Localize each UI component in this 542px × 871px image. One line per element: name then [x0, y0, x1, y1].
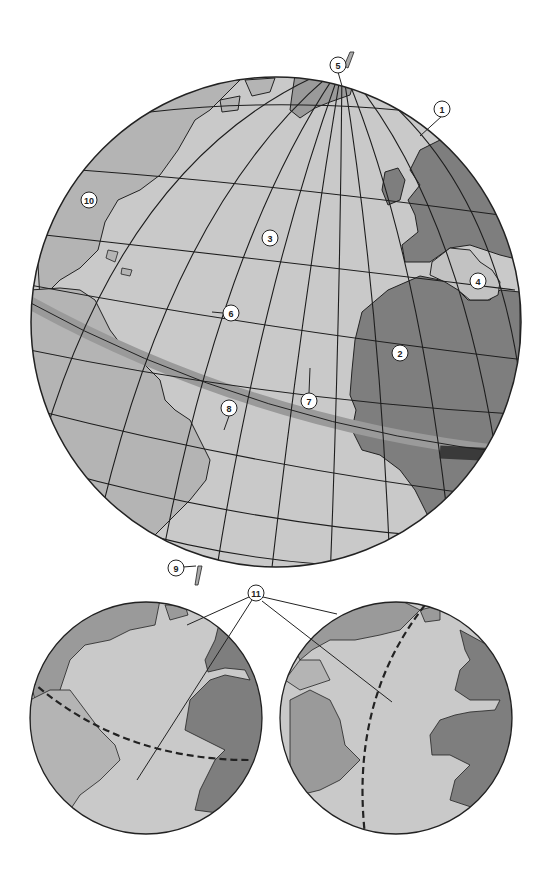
svg-text:3: 3 [267, 234, 272, 244]
callout-4: 4 [470, 273, 486, 289]
callout-8: 8 [221, 400, 237, 416]
svg-text:6: 6 [228, 309, 233, 319]
svg-text:1: 1 [439, 105, 444, 115]
svg-text:4: 4 [475, 277, 480, 287]
callout-3: 3 [262, 230, 278, 246]
svg-text:9: 9 [173, 564, 178, 574]
globe-diagram: 1 2 3 4 5 6 7 8 9 10 [0, 0, 542, 871]
callout-6: 6 [223, 305, 239, 321]
svg-text:8: 8 [226, 404, 231, 414]
callout-5: 5 [330, 57, 346, 73]
europe-landmass [402, 140, 520, 262]
svg-text:7: 7 [306, 397, 311, 407]
main-globe [25, 52, 530, 600]
svg-text:10: 10 [84, 196, 94, 206]
callout-7: 7 [301, 393, 317, 409]
left-small-globe [30, 600, 270, 834]
equator-band-dark-segment [440, 452, 520, 456]
south-axis-stub [195, 566, 202, 585]
callout-9: 9 [168, 560, 184, 576]
svg-text:2: 2 [397, 349, 402, 359]
svg-text:11: 11 [251, 589, 261, 599]
callout-1: 1 [434, 101, 450, 117]
callout-10: 10 [81, 192, 97, 208]
callout-11: 11 [248, 585, 264, 601]
callout-2: 2 [392, 345, 408, 361]
svg-text:5: 5 [335, 61, 340, 71]
right-small-globe [280, 600, 515, 835]
